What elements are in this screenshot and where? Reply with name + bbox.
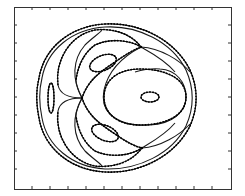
hyperbolic-point-bottom	[141, 147, 143, 149]
separatrix-inner	[76, 41, 190, 156]
phase-portrait-svg	[0, 0, 245, 196]
separatrix-outer-crescent	[58, 30, 142, 167]
hyperbolic-point-top	[140, 46, 142, 48]
outer-boundary	[37, 24, 196, 172]
phase-portrait-figure	[0, 0, 245, 196]
hyperbolic-point-left	[81, 97, 83, 99]
axis-ticks	[14, 7, 231, 189]
